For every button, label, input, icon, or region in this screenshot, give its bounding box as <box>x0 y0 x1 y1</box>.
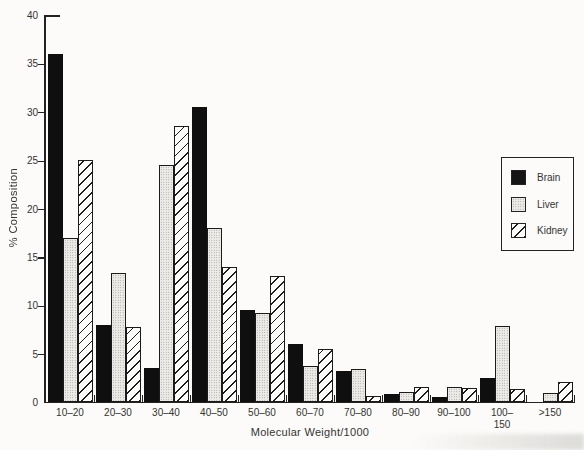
x-category-label-60-70: 60–70 <box>296 407 324 419</box>
bar-liver-30-40 <box>159 165 174 402</box>
y-tick-label-0: 0 <box>10 397 38 409</box>
kidney-swatch-icon <box>511 223 526 238</box>
x-category-label-50-60: 50–60 <box>248 407 276 419</box>
x-category-label-30-40: 30–40 <box>152 407 180 419</box>
bar-kidney-100-150 <box>510 389 525 402</box>
bar-liver-70-80 <box>351 369 366 402</box>
x-boundary-tick-1 <box>94 395 95 402</box>
bar-kidney-30-40 <box>174 126 189 402</box>
y-tick-20 <box>38 209 45 210</box>
bar-kidney-50-60 <box>270 276 285 402</box>
bar-brain-60-70 <box>288 344 303 402</box>
y-tick-label-5: 5 <box>10 349 38 361</box>
brain-swatch-icon <box>511 170 526 185</box>
x-boundary-tick-4 <box>238 395 239 402</box>
bar-brain-50-60 <box>240 310 255 402</box>
x-category-label-40-50: 40–50 <box>200 407 228 419</box>
x-boundary-tick-9 <box>478 395 479 402</box>
x-category-label-100-150: 100–150 <box>491 407 513 430</box>
bar-brain-70-80 <box>336 371 351 402</box>
bar-kidney-40-50 <box>222 267 237 402</box>
liver-swatch-icon <box>511 197 526 212</box>
x-category-label-20-30: 20–30 <box>104 407 132 419</box>
y-tick-label-30: 30 <box>10 107 38 119</box>
x-boundary-tick-3 <box>190 395 191 402</box>
bar-brain-10-20 <box>48 54 63 402</box>
bar-kidney-70-80 <box>366 396 381 402</box>
y-tick-5 <box>38 354 45 355</box>
x-boundary-tick-10 <box>526 395 527 402</box>
x-category-label-70-80: 70–80 <box>344 407 372 419</box>
bar-kidney-150 <box>558 382 573 402</box>
bar-liver-100-150 <box>495 326 510 402</box>
bar-liver-20-30 <box>111 273 126 402</box>
x-boundary-tick-11 <box>574 395 575 402</box>
x-boundary-tick-2 <box>142 395 143 402</box>
legend: Brain Liver Kidney <box>501 157 574 251</box>
bar-liver-60-70 <box>303 366 318 402</box>
y-tick-15 <box>38 257 45 258</box>
x-category-label-90-100: 90–100 <box>437 407 470 419</box>
bar-kidney-60-70 <box>318 349 333 402</box>
legend-item-kidney: Kidney <box>511 223 573 238</box>
y-tick-10 <box>38 306 45 307</box>
y-tick-label-10: 10 <box>10 300 38 312</box>
legend-label-kidney: Kidney <box>537 225 568 236</box>
y-tick-label-25: 25 <box>10 155 38 167</box>
bar-brain-100-150 <box>480 378 495 402</box>
y-tick-label-40: 40 <box>10 10 38 22</box>
y-tick-label-35: 35 <box>10 58 38 70</box>
x-category-label-10-20: 10–20 <box>56 407 84 419</box>
x-boundary-tick-7 <box>382 395 383 402</box>
x-boundary-tick-5 <box>286 395 287 402</box>
figure: % Composition Molecular Weight/1000 Brai… <box>0 0 584 450</box>
y-tick-25 <box>38 161 45 162</box>
bar-liver-50-60 <box>255 313 270 402</box>
legend-item-brain: Brain <box>511 170 573 185</box>
bar-liver-80-90 <box>399 392 414 402</box>
x-boundary-tick-8 <box>430 395 431 402</box>
y-tick-label-15: 15 <box>10 252 38 264</box>
legend-item-liver: Liver <box>511 197 573 212</box>
legend-label-brain: Brain <box>537 172 560 183</box>
y-tick-label-20: 20 <box>10 204 38 216</box>
y-tick-30 <box>38 112 45 113</box>
bar-brain-30-40 <box>144 368 159 402</box>
bar-liver-150 <box>543 393 558 402</box>
legend-label-liver: Liver <box>537 199 559 210</box>
bar-kidney-80-90 <box>414 387 429 402</box>
bar-liver-10-20 <box>63 238 78 402</box>
bar-kidney-90-100 <box>462 388 477 402</box>
x-category-label-150: >150 <box>539 407 562 419</box>
bar-brain-40-50 <box>192 107 207 402</box>
bar-kidney-20-30 <box>126 327 141 402</box>
bar-brain-80-90 <box>384 394 399 402</box>
bar-liver-90-100 <box>447 387 462 402</box>
bar-kidney-10-20 <box>78 160 93 402</box>
x-category-label-80-90: 80–90 <box>392 407 420 419</box>
y-axis-top-corner <box>44 15 60 17</box>
bar-brain-20-30 <box>96 325 111 402</box>
bar-liver-40-50 <box>207 228 222 402</box>
bar-brain-90-100 <box>432 397 447 402</box>
x-boundary-tick-6 <box>334 395 335 402</box>
y-tick-35 <box>38 64 45 65</box>
